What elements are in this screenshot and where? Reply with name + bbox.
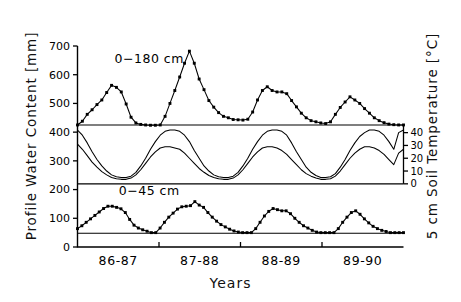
y-axis-right-title: 5 cm Soil Temperature [°C]: [424, 21, 440, 251]
series-marker: [359, 213, 362, 216]
series-marker: [346, 216, 349, 219]
series-marker: [383, 121, 386, 124]
series-marker: [86, 113, 89, 116]
series-marker: [130, 116, 133, 119]
series-marker: [334, 113, 337, 116]
series-marker: [402, 124, 405, 127]
series-marker: [298, 221, 301, 224]
series-marker: [232, 118, 235, 121]
series-marker: [93, 214, 96, 217]
series-marker: [211, 216, 214, 219]
series-marker: [206, 211, 209, 214]
series-marker: [154, 124, 157, 127]
series-marker: [237, 118, 240, 121]
figure-container: 010020030040050060070001020304086-8787-8…: [0, 0, 461, 302]
series-marker: [217, 111, 220, 114]
x-axis-category-label: 86-87: [99, 253, 138, 268]
series-marker: [133, 224, 136, 227]
series-marker: [363, 217, 366, 220]
series-marker: [350, 211, 353, 214]
series-marker: [124, 211, 127, 214]
series-marker: [373, 116, 376, 119]
series-marker: [385, 230, 388, 233]
y-axis-right-tick-label: 20: [411, 153, 424, 164]
series-marker: [120, 90, 123, 93]
series-marker: [178, 76, 181, 79]
series-marker: [397, 124, 400, 127]
series-marker: [134, 122, 137, 125]
series-marker: [285, 209, 288, 212]
series-marker: [163, 221, 166, 224]
series-marker: [293, 217, 296, 220]
series-marker: [202, 206, 205, 209]
series-marker: [81, 120, 84, 123]
series-marker: [215, 220, 218, 223]
series-marker: [398, 231, 401, 234]
series-marker: [276, 90, 279, 93]
series-marker: [164, 115, 167, 118]
series-marker: [91, 108, 94, 111]
y-axis-left-tick-label: 600: [49, 69, 70, 82]
series-marker: [207, 99, 210, 102]
x-axis-category-label: 89-90: [343, 253, 382, 268]
series-marker: [149, 124, 152, 127]
series-marker: [311, 229, 314, 232]
series-marker: [111, 205, 114, 208]
series-marker: [368, 112, 371, 115]
series-marker: [280, 90, 283, 93]
y-axis-left-tick-label: 500: [49, 97, 70, 110]
series-marker: [233, 229, 236, 232]
series-marker: [169, 102, 172, 105]
series-marker: [146, 230, 149, 233]
series-marker: [219, 223, 222, 226]
series-marker: [315, 231, 318, 234]
series-marker: [222, 115, 225, 118]
series-marker: [172, 212, 175, 215]
series-marker: [341, 221, 344, 224]
series-marker: [259, 221, 262, 224]
series-marker: [349, 95, 352, 98]
series-marker: [188, 50, 191, 53]
series-marker: [198, 204, 201, 207]
series-marker: [76, 124, 79, 127]
series-marker: [314, 120, 317, 123]
series-marker: [378, 119, 381, 122]
series-marker: [376, 227, 379, 230]
series-marker: [254, 227, 257, 230]
series-marker: [154, 231, 157, 234]
series-marker: [198, 78, 201, 81]
series-marker: [310, 119, 313, 122]
axis-spines: [78, 46, 404, 247]
series-marker: [393, 231, 396, 234]
x-axis-category-label: 87-88: [180, 253, 219, 268]
series-marker: [96, 103, 99, 106]
series-marker: [344, 101, 347, 104]
series-marker: [98, 211, 101, 214]
series-marker: [110, 84, 113, 87]
series-marker: [85, 221, 88, 224]
series-marker: [319, 122, 322, 125]
y-axis-left-title: Profile Water Content [mm]: [23, 21, 39, 251]
y-axis-left-tick-label: 200: [49, 183, 70, 196]
series-marker: [167, 216, 170, 219]
y-axis-right-tick-label: 30: [411, 140, 424, 151]
series-marker: [128, 218, 131, 221]
chart-canvas: 010020030040050060070001020304086-8787-8…: [0, 0, 461, 302]
series-marker: [353, 99, 356, 102]
series-marker: [241, 119, 244, 122]
series-marker: [241, 231, 244, 234]
series-marker: [358, 102, 361, 105]
y-axis-left-tick-label: 100: [49, 212, 70, 225]
series-marker: [289, 212, 292, 215]
series-marker: [290, 99, 293, 102]
series-marker: [125, 103, 128, 106]
series-marker: [139, 123, 142, 126]
series-marker: [250, 231, 253, 234]
series-marker: [300, 112, 303, 115]
series-marker: [272, 207, 275, 210]
series-marker: [324, 122, 327, 125]
axes-layer: [73, 46, 408, 247]
series-marker: [159, 124, 162, 127]
series-marker: [267, 210, 270, 213]
series-marker: [302, 224, 305, 227]
